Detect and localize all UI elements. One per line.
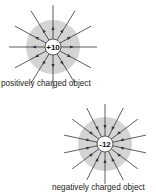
electric-field-diagram: +10 -12 xyxy=(0,0,156,195)
negative-charge-field: -12 xyxy=(64,104,146,184)
positive-charge-field: +10 xyxy=(9,5,97,89)
positive-charge-caption: positively charged object xyxy=(1,79,91,88)
negative-charge-caption: negatively charged object xyxy=(52,183,145,192)
charge-label: -12 xyxy=(99,140,111,149)
charge-label: +10 xyxy=(46,43,60,52)
